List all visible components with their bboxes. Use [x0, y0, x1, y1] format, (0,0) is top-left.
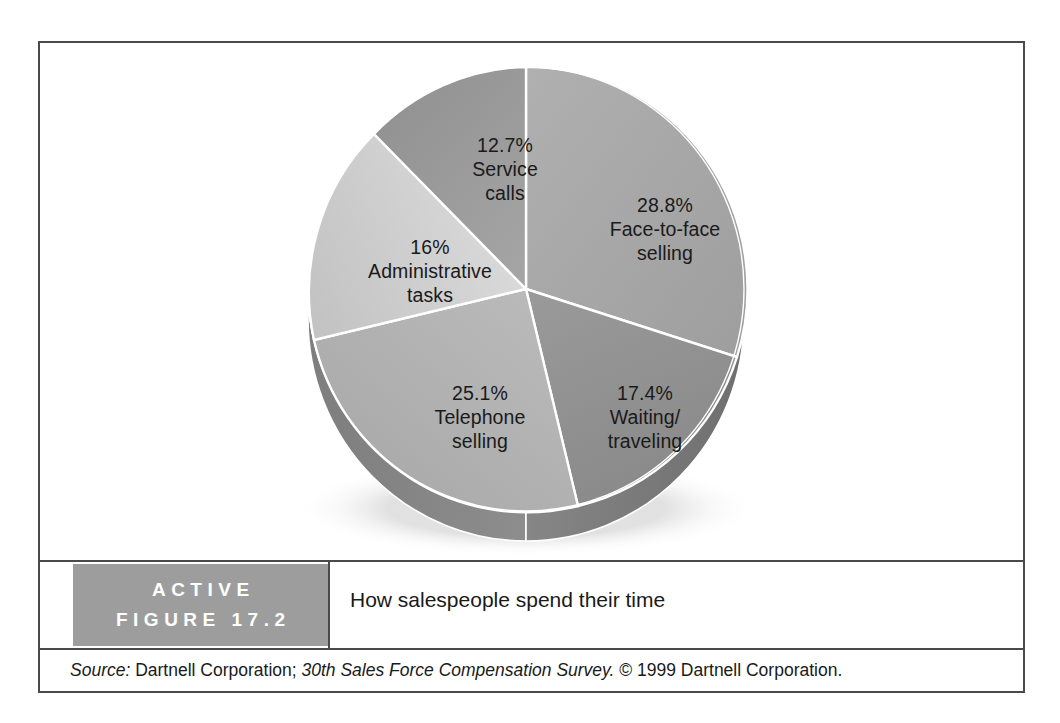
- slice-label-administrative-tasks: 16% Administrative tasks: [330, 235, 530, 307]
- slice-name-telephone-selling-line2: selling: [395, 429, 565, 453]
- slice-label-service-calls: 12.7% Service calls: [430, 133, 580, 205]
- source-copyright: © 1999 Dartnell Corporation.: [614, 660, 842, 680]
- figure-source: Source: Dartnell Corporation; 30th Sales…: [70, 660, 842, 681]
- caption-row: ACTIVE FIGURE 17.2 How salespeople spend…: [40, 562, 1023, 648]
- slice-name-service-calls-line1: Service: [430, 157, 580, 181]
- source-publisher: Dartnell Corporation;: [130, 660, 301, 680]
- slice-percent-administrative-tasks: 16%: [330, 235, 530, 259]
- slice-name-face-to-face-line2: selling: [570, 241, 760, 265]
- figure-caption: How salespeople spend their time: [350, 588, 665, 612]
- slice-percent-face-to-face: 28.8%: [570, 193, 760, 217]
- pie-chart: [40, 43, 1023, 560]
- source-title: 30th Sales Force Compensation Survey.: [302, 660, 615, 680]
- pie-chart-region: 28.8% Face-to-face selling 17.4% Waiting…: [40, 43, 1023, 560]
- active-figure-badge[interactable]: ACTIVE FIGURE 17.2: [73, 564, 328, 646]
- slice-percent-telephone-selling: 25.1%: [395, 381, 565, 405]
- figure-frame: 28.8% Face-to-face selling 17.4% Waiting…: [38, 41, 1025, 693]
- figure-page: 28.8% Face-to-face selling 17.4% Waiting…: [0, 0, 1060, 723]
- slice-label-face-to-face: 28.8% Face-to-face selling: [570, 193, 760, 265]
- source-row: Source: Dartnell Corporation; 30th Sales…: [40, 650, 1023, 691]
- source-prefix: Source:: [70, 660, 130, 680]
- slice-name-service-calls-line2: calls: [430, 181, 580, 205]
- slice-name-face-to-face-line1: Face-to-face: [570, 217, 760, 241]
- slice-percent-waiting-traveling: 17.4%: [565, 381, 725, 405]
- slice-name-telephone-selling-line1: Telephone: [395, 405, 565, 429]
- active-figure-line1: ACTIVE: [146, 575, 254, 605]
- slice-name-administrative-tasks-line2: tasks: [330, 283, 530, 307]
- slice-label-waiting-traveling: 17.4% Waiting/ traveling: [565, 381, 725, 453]
- slice-name-waiting-traveling-line1: Waiting/: [565, 405, 725, 429]
- caption-vertical-rule: [328, 562, 330, 648]
- slice-percent-service-calls: 12.7%: [430, 133, 580, 157]
- slice-label-telephone-selling: 25.1% Telephone selling: [395, 381, 565, 453]
- slice-name-administrative-tasks-line1: Administrative: [330, 259, 530, 283]
- slice-name-waiting-traveling-line2: traveling: [565, 429, 725, 453]
- active-figure-line2: FIGURE 17.2: [110, 605, 290, 635]
